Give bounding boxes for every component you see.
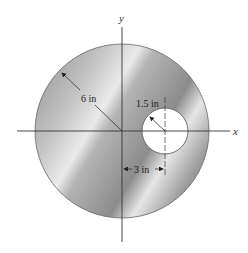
hole-radius-label: 1.5 in [136,98,159,109]
x-axis-label: x [232,125,238,137]
outer-radius-label: 6 in [81,93,96,104]
offset-label: 3 in [134,164,149,175]
y-axis-label: y [118,12,124,24]
plate-diagram: x y 6 in 1.5 in 3 in [0,0,248,253]
